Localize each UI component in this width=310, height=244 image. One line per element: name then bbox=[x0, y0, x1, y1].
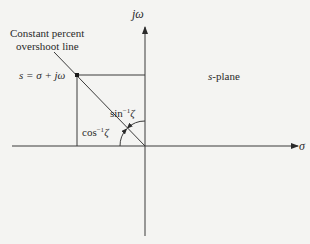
cos-inverse-zeta-label: cos−1ζ bbox=[82, 127, 109, 138]
cos-text: cos bbox=[82, 126, 97, 138]
imaginary-axis-label: jω bbox=[132, 8, 144, 20]
s-plane-label: s-plane bbox=[208, 71, 240, 82]
s-point-marker bbox=[75, 73, 79, 77]
s-point-label: s = σ + jω bbox=[19, 70, 65, 81]
sin-text: sin bbox=[110, 107, 123, 119]
sin-inverse-zeta-label: sin−1ζ bbox=[110, 108, 135, 119]
real-axis-label: σ bbox=[299, 140, 305, 152]
overshoot-line-title-1: Constant percent bbox=[10, 28, 84, 39]
cos-inverse-angle-arc bbox=[120, 129, 127, 146]
overshoot-line-title-2: overshoot line bbox=[16, 41, 79, 52]
zeta-symbol: ζ bbox=[104, 126, 108, 138]
zeta-symbol: ζ bbox=[130, 107, 134, 119]
inverse-exponent: −1 bbox=[97, 126, 104, 134]
sin-inverse-angle-arc bbox=[128, 121, 146, 128]
